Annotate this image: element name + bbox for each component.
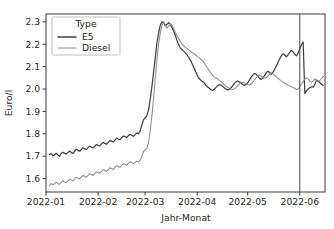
x-tick-label: 2022-01	[27, 196, 65, 207]
y-tick-label: 2.3	[25, 16, 40, 27]
legend-label-e5: E5	[82, 31, 94, 42]
y-tick-label: 1.7	[25, 150, 40, 161]
legend-title: Type	[74, 18, 96, 29]
y-tick-label: 2.0	[25, 83, 40, 94]
legend-label-diesel: Diesel	[82, 42, 110, 53]
x-axis-title: Jahr-Monat	[160, 212, 211, 223]
x-tick-label: 2022-03	[126, 196, 165, 207]
y-tick-label: 1.8	[25, 128, 40, 139]
fuel-price-line-chart: 1.61.71.81.92.02.12.22.32022-012022-0220…	[0, 0, 334, 229]
x-tick-label: 2022-06	[281, 196, 320, 207]
legend[interactable]: Type E5 Diesel	[52, 17, 120, 55]
x-tick-label: 2022-02	[79, 196, 117, 207]
x-tick-label: 2022-05	[228, 196, 267, 207]
x-tick-label: 2022-04	[178, 196, 217, 207]
y-tick-label: 2.1	[25, 61, 40, 72]
y-tick-label: 2.2	[25, 39, 40, 50]
y-axis-title: Euro/l	[3, 90, 14, 116]
y-tick-label: 1.6	[25, 173, 40, 184]
y-tick-label: 1.9	[25, 106, 40, 117]
figure-container: 1.61.71.81.92.02.12.22.32022-012022-0220…	[0, 0, 334, 229]
